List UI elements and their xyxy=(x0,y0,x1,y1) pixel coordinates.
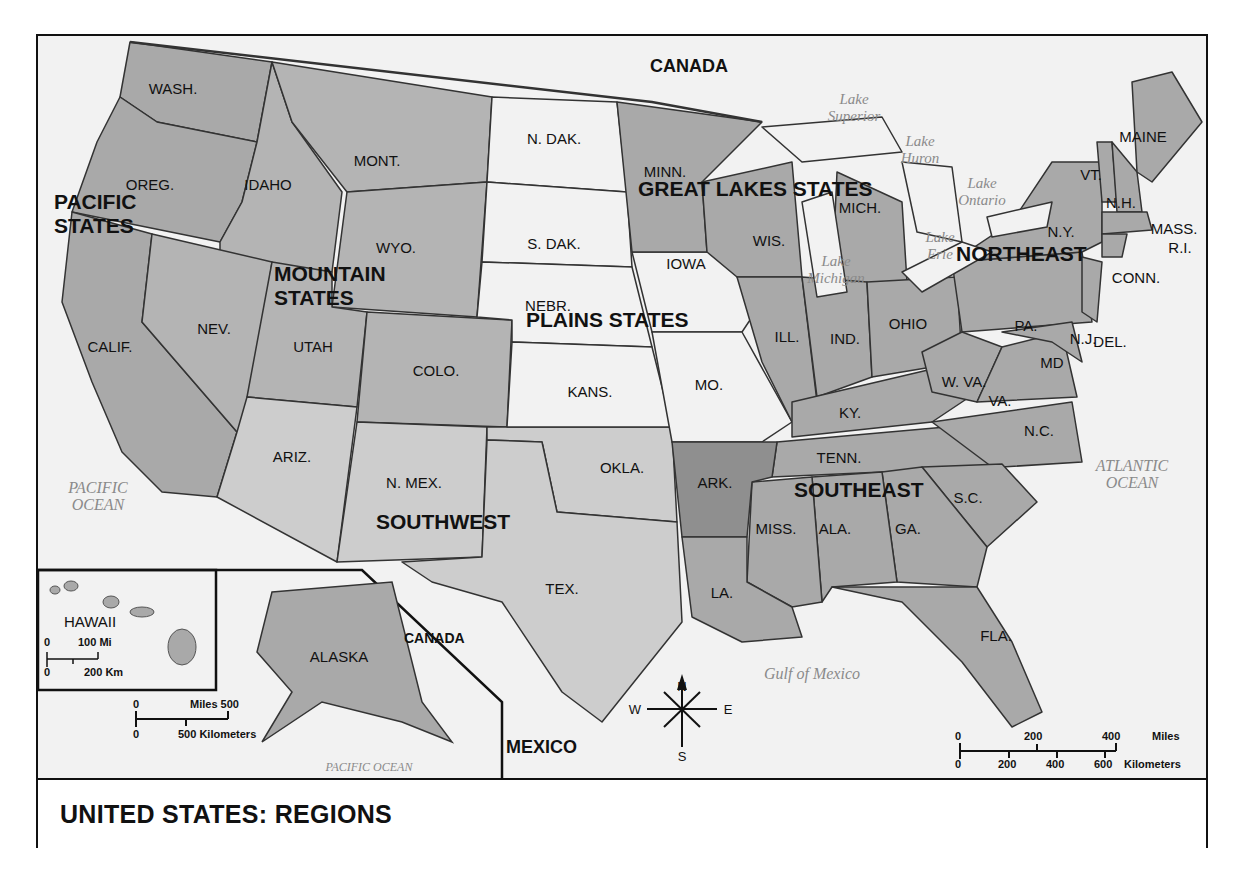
state-label-ny: N.Y. xyxy=(1047,223,1074,240)
compass-w-label: W xyxy=(629,702,641,717)
state-label-ariz: ARIZ. xyxy=(273,448,311,465)
title-bar: UNITED STATES: REGIONS xyxy=(38,778,1206,848)
region-label-southeast: SOUTHEAST xyxy=(794,478,924,502)
state-label-nmex: N. MEX. xyxy=(386,474,442,491)
state-label-wash: WASH. xyxy=(149,80,198,97)
map-title: UNITED STATES: REGIONS xyxy=(60,800,392,829)
scale-main-mi-0: 0 xyxy=(955,730,961,742)
state-label-alaska: ALASKA xyxy=(310,648,368,665)
state-label-maine: MAINE xyxy=(1119,128,1167,145)
scale-hawaii-km-0: 0 xyxy=(44,666,50,678)
state-label-ndak: N. DAK. xyxy=(527,130,581,147)
state-label-colo: COLO. xyxy=(413,362,460,379)
state-label-utah: UTAH xyxy=(293,338,333,355)
compass-n-label: N xyxy=(677,679,686,694)
us-regions-map xyxy=(38,36,1206,778)
water-label-pacific-ocean: PACIFICOCEAN xyxy=(68,479,127,513)
state-label-ky: KY. xyxy=(839,404,861,421)
compass-e-label: E xyxy=(724,702,733,717)
state-label-minn: MINN. xyxy=(644,163,687,180)
water-label-lake-ontario: LakeOntario xyxy=(958,175,1006,209)
map-frame: PACIFICSTATES MOUNTAINSTATES PLAINS STAT… xyxy=(36,34,1208,848)
scale-hawaii-km-label: 200 Km xyxy=(84,666,123,678)
state-label-la: LA. xyxy=(711,584,734,601)
state-label-sc: S.C. xyxy=(953,489,982,506)
state-label-wyo: WYO. xyxy=(376,239,416,256)
state-label-idaho: IDAHO xyxy=(244,176,292,193)
state-label-sdak: S. DAK. xyxy=(527,235,580,252)
scale-alaska-mi-label: Miles 500 xyxy=(190,698,239,710)
scale-main-km-0: 0 xyxy=(955,758,961,770)
state-label-ala: ALA. xyxy=(819,520,852,537)
state-label-oreg: OREG. xyxy=(126,176,174,193)
region-label-great-lakes: GREAT LAKES STATES xyxy=(638,177,873,201)
state-label-ark: ARK. xyxy=(697,474,732,491)
water-label-lake-superior: LakeSuperior xyxy=(828,91,881,125)
state-label-nh: N.H. xyxy=(1106,194,1136,211)
state-label-mont: MONT. xyxy=(354,152,401,169)
state-label-ri: R.I. xyxy=(1168,239,1191,256)
state-label-tex: TEX. xyxy=(545,580,578,597)
state-mass xyxy=(1102,212,1152,234)
state-label-fla: FLA. xyxy=(980,627,1012,644)
state-label-del: DEL. xyxy=(1093,333,1126,350)
country-label-canada-inset: CANADA xyxy=(404,630,465,646)
scale-hawaii-mi-label: 100 Mi xyxy=(78,636,112,648)
water-label-gulf-of-mexico: Gulf of Mexico xyxy=(764,665,860,682)
state-label-miss: MISS. xyxy=(756,520,797,537)
state-label-mo: MO. xyxy=(695,376,723,393)
country-label-canada: CANADA xyxy=(650,56,728,77)
scale-main-km-400: 400 xyxy=(1046,758,1064,770)
state-label-vt: VT. xyxy=(1080,166,1102,183)
state-label-nc: N.C. xyxy=(1024,422,1054,439)
water-label-lake-michigan: LakeMichigan xyxy=(807,253,865,287)
region-label-mountain: MOUNTAINSTATES xyxy=(274,262,386,310)
scale-alaska-km-0: 0 xyxy=(133,728,139,740)
region-label-southwest: SOUTHWEST xyxy=(376,510,510,534)
state-label-mass: MASS. xyxy=(1151,220,1198,237)
state-label-pa: PA. xyxy=(1014,317,1037,334)
state-sdak xyxy=(482,182,632,267)
scale-main-mi-unit: Miles xyxy=(1152,730,1180,742)
state-label-hawaii: HAWAII xyxy=(64,613,116,630)
state-label-wis: WIS. xyxy=(753,232,786,249)
scale-main-mi-400: 400 xyxy=(1102,730,1120,742)
country-label-mexico: MEXICO xyxy=(506,737,577,758)
state-label-calif: CALIF. xyxy=(87,338,132,355)
region-label-pacific: PACIFICSTATES xyxy=(54,190,136,238)
water-label-pacific-ocean-inset: PACIFIC OCEAN xyxy=(326,759,413,776)
state-label-conn: CONN. xyxy=(1112,269,1160,286)
state-label-okla: OKLA. xyxy=(600,459,644,476)
state-label-ill: ILL. xyxy=(774,328,799,345)
scale-hawaii-mi-0: 0 xyxy=(44,636,50,648)
state-label-md: MD xyxy=(1040,354,1063,371)
state-label-iowa: IOWA xyxy=(666,255,705,272)
scale-main-km-200: 200 xyxy=(998,758,1016,770)
state-nmex xyxy=(337,422,487,562)
state-label-ga: GA. xyxy=(895,520,921,537)
scale-main-mi-200: 200 xyxy=(1024,730,1042,742)
state-label-nebr: NEBR. xyxy=(525,297,571,314)
water-label-lake-huron: LakeHuron xyxy=(901,133,940,167)
state-label-ind: IND. xyxy=(830,330,860,347)
scale-main-km-600: 600 xyxy=(1094,758,1112,770)
water-label-lake-erie: LakeErie xyxy=(925,229,954,263)
state-label-kans: KANS. xyxy=(567,383,612,400)
region-label-northeast: NORTHEAST xyxy=(956,242,1087,266)
state-label-tenn: TENN. xyxy=(817,449,862,466)
state-label-va: VA. xyxy=(988,392,1011,409)
state-label-mich: MICH. xyxy=(839,199,882,216)
state-conn xyxy=(1102,234,1127,257)
scale-alaska-mi-0: 0 xyxy=(133,698,139,710)
state-label-ohio: OHIO xyxy=(889,315,927,332)
compass-s-label: S xyxy=(678,749,687,764)
state-label-wva: W. VA. xyxy=(942,373,987,390)
water-label-atlantic-ocean: ATLANTICOCEAN xyxy=(1096,457,1168,491)
scale-alaska-km-label: 500 Kilometers xyxy=(178,728,256,740)
state-label-nj: N.J. xyxy=(1070,330,1097,347)
scale-main-km-unit: Kilometers xyxy=(1124,758,1181,770)
state-label-nev: NEV. xyxy=(197,320,231,337)
